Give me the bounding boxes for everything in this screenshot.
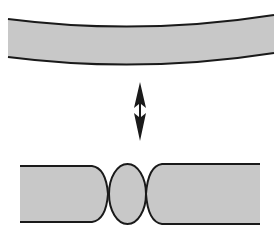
bent-tube bbox=[8, 15, 274, 65]
constricted-tube bbox=[20, 164, 260, 224]
diagram-canvas bbox=[0, 0, 277, 235]
arrow-down-head bbox=[134, 113, 146, 141]
right-segment bbox=[146, 164, 260, 224]
double-arrow-icon bbox=[134, 82, 146, 141]
diagram-svg bbox=[0, 0, 277, 235]
left-segment bbox=[20, 166, 108, 222]
bulb bbox=[109, 164, 146, 224]
arrow-shaft bbox=[139, 104, 141, 117]
